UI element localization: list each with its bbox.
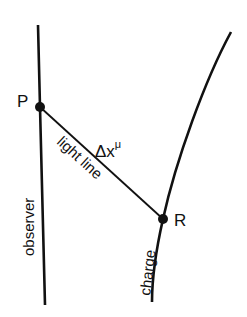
event-p-label: P <box>17 92 28 111</box>
interval-label: Δxμ <box>95 138 121 161</box>
event-p-dot <box>35 102 45 112</box>
event-r-dot <box>158 214 168 224</box>
charge-worldline <box>152 32 231 302</box>
charge-label: charge <box>136 249 158 297</box>
interval-base: Δx <box>95 142 115 161</box>
observer-worldline <box>38 25 45 305</box>
event-r-label: R <box>174 211 186 230</box>
light-line <box>40 107 163 219</box>
observer-label: observer <box>20 198 37 256</box>
spacetime-diagram: P R Δxμ light line observer charge <box>0 0 247 317</box>
interval-superscript: μ <box>115 138 121 150</box>
